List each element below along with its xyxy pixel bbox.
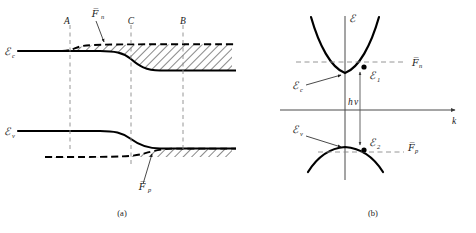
hole-quasi-fermi-symbol-a: F̅ — [138, 181, 146, 192]
valence-band-subscript-a: v — [12, 132, 15, 139]
position-marker-b: B — [180, 16, 186, 26]
conduction-band-subscript-a: c — [12, 52, 15, 59]
figure-canvas: A C B ℰ c ℰ v F̅ n F̅ p (a) — [0, 0, 476, 233]
valence-band-symbol-b: ℰ — [292, 124, 300, 135]
label-photon-energy: h ν — [348, 97, 359, 107]
caption-panel-a: (a) — [117, 208, 127, 218]
momentum-axis-label: k — [452, 116, 457, 126]
label-state-e2: ℰ 2 — [369, 137, 381, 150]
valence-band-subscript-b: v — [300, 130, 303, 137]
state-e1-symbol: ℰ — [369, 70, 377, 81]
label-hole-quasi-fermi-b: F̅ p — [407, 142, 419, 154]
photon-energy-nu: ν — [354, 97, 359, 107]
conduction-band-subscript-b: c — [300, 86, 303, 93]
electron-quasi-fermi-subscript-a: n — [101, 13, 104, 20]
label-valence-band-b: ℰ v — [292, 124, 341, 147]
electron-quasi-fermi-leader — [96, 21, 104, 42]
label-conduction-band-a: ℰ c — [4, 46, 15, 59]
label-valence-band-a: ℰ v — [4, 126, 15, 139]
position-marker-c: C — [128, 16, 135, 26]
state-point-e1 — [361, 64, 366, 69]
label-conduction-band-b: ℰ c — [292, 75, 341, 93]
conduction-band-leader — [306, 75, 341, 85]
conduction-band-symbol-b: ℰ — [292, 80, 300, 91]
conduction-filled-region — [62, 45, 232, 71]
panel-b: ℰ k F̅ n F̅ p ℰ c ℰ v — [280, 13, 457, 218]
hole-quasi-fermi-subscript-b: p — [414, 147, 419, 154]
valence-band-leader — [306, 136, 341, 147]
electron-quasi-fermi-symbol-b: F̅ — [411, 57, 419, 68]
caption-panel-b: (b) — [368, 208, 378, 218]
state-e2-symbol: ℰ — [369, 137, 377, 148]
hole-quasi-fermi-leader — [143, 154, 152, 184]
hole-quasi-fermi-symbol-b: F̅ — [407, 142, 415, 153]
energy-axis-label: ℰ — [349, 13, 357, 24]
electron-quasi-fermi-symbol-a: F̅ — [91, 8, 99, 19]
state-e2-subscript: 2 — [377, 143, 381, 150]
label-state-e1: ℰ 1 — [369, 70, 380, 83]
valence-band-symbol-a: ℰ — [4, 126, 12, 137]
label-electron-quasi-fermi-a: F̅ n — [91, 8, 105, 42]
state-point-e2 — [361, 147, 366, 152]
panel-a: A C B ℰ c ℰ v F̅ n F̅ p (a) — [4, 8, 236, 218]
valence-band-edge — [18, 131, 236, 149]
hole-quasi-fermi-subscript-a: p — [147, 186, 152, 193]
figure-root: A C B ℰ c ℰ v F̅ n F̅ p (a) — [0, 0, 476, 233]
photon-energy-h: h — [348, 97, 353, 107]
state-e1-subscript: 1 — [377, 76, 380, 83]
label-electron-quasi-fermi-b: F̅ n — [411, 57, 422, 69]
label-hole-quasi-fermi-a: F̅ p — [138, 154, 152, 193]
conduction-band-symbol-a: ℰ — [4, 46, 12, 57]
electron-quasi-fermi-subscript-b: n — [419, 62, 422, 69]
position-marker-a: A — [63, 16, 70, 26]
